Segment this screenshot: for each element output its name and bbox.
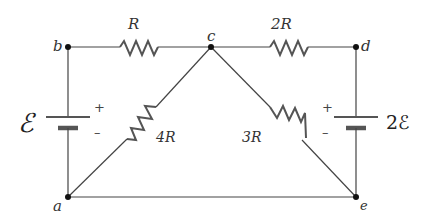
battery-right-icon bbox=[334, 117, 378, 128]
resistor-3r-icon bbox=[270, 106, 306, 138]
node-label-c: c bbox=[207, 29, 215, 44]
wire-c-to-4r bbox=[156, 47, 211, 107]
wire-c-to-3r bbox=[211, 47, 270, 107]
node-a-dot bbox=[65, 194, 71, 200]
wire-3r-to-e bbox=[302, 140, 356, 197]
resistor-label-4r: 4R bbox=[156, 130, 175, 144]
battery-left-icon bbox=[46, 117, 90, 128]
resistor-r-icon bbox=[120, 41, 158, 55]
battery-left-plus: + bbox=[94, 101, 105, 114]
node-e-dot bbox=[353, 194, 359, 200]
resistor-label-2r: 2R bbox=[271, 17, 292, 32]
node-label-b: b bbox=[53, 39, 63, 54]
battery-left-minus: – bbox=[94, 126, 101, 139]
resistor-4r-icon bbox=[127, 106, 156, 140]
resistor-label-r: R bbox=[128, 17, 139, 32]
emf-label-right: 2ℰ bbox=[386, 113, 410, 132]
node-d-dot bbox=[353, 44, 359, 50]
battery-right-plus: + bbox=[322, 101, 333, 114]
resistor-2r-icon bbox=[270, 41, 308, 55]
node-label-a: a bbox=[53, 199, 62, 214]
battery-right-minus: – bbox=[322, 126, 329, 139]
wire-4r-to-a bbox=[68, 139, 127, 197]
node-label-d: d bbox=[361, 39, 371, 54]
resistor-label-3r: 3R bbox=[242, 130, 261, 144]
circuit-diagram: b c d a e R 2R 4R 3R + – + – ℰ 2ℰ bbox=[0, 0, 428, 224]
emf-label-left: ℰ bbox=[18, 110, 34, 136]
node-label-e: e bbox=[360, 199, 368, 212]
node-b-dot bbox=[65, 44, 71, 50]
